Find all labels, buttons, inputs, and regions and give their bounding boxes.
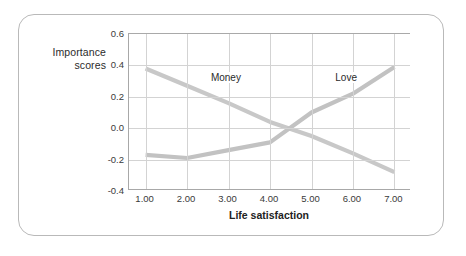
gridline-vertical: [353, 34, 354, 189]
x-axis-tick-label: 7.00: [371, 193, 415, 204]
gridline-vertical: [394, 34, 395, 189]
x-axis-tick-label: 3.00: [206, 193, 250, 204]
series-label-money: Money: [209, 72, 243, 83]
y-axis-tick-label: 0.2: [84, 90, 124, 101]
y-axis-tick-label: -0.4: [84, 185, 124, 196]
gridline-vertical: [146, 34, 147, 189]
x-axis-tick-label: 1.00: [123, 193, 167, 204]
x-axis-tick-label: 2.00: [164, 193, 208, 204]
y-axis-tick-label: -0.2: [84, 153, 124, 164]
x-axis-tick-label: 6.00: [330, 193, 374, 204]
gridline-vertical: [187, 34, 188, 189]
x-axis-title: Life satisfaction: [128, 209, 410, 221]
x-axis-tick-label: 4.00: [247, 193, 291, 204]
y-axis-tick-label: 0.0: [84, 122, 124, 133]
chart-screenshot: Importance scores 0.60.40.20.0-0.2-0.4 1…: [0, 0, 466, 256]
y-axis-tick-label: 0.4: [84, 59, 124, 70]
x-axis-tick-labels: 1.002.003.004.005.006.007.00: [128, 193, 410, 209]
gridline-vertical: [229, 34, 230, 189]
plot-area: [128, 33, 410, 190]
gridline-vertical: [270, 34, 271, 189]
x-axis-tick-label: 5.00: [289, 193, 333, 204]
y-axis-tick-label: 0.6: [84, 28, 124, 39]
y-axis-tick-labels: 0.60.40.20.0-0.2-0.4: [82, 33, 124, 190]
series-label-love: Love: [333, 72, 359, 83]
gridline-vertical: [312, 34, 313, 189]
